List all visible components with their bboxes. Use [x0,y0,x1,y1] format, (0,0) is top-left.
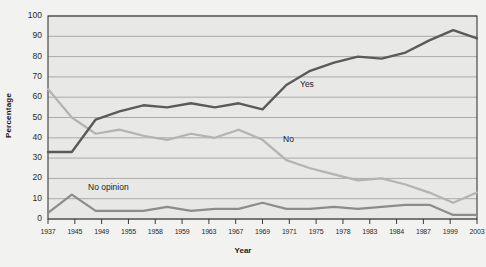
x-axis-title: Year [0,246,486,255]
chart-container: Percentage 0102030405060708090100 193719… [0,0,486,267]
series-label-no: No [283,134,294,144]
series-label-yes: Yes [300,79,314,89]
plot-area [0,0,486,267]
series-label-no-opinion: No opinion [88,182,129,192]
